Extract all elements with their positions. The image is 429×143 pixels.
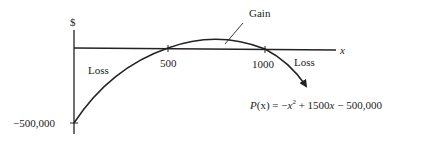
loss-label-left: Loss: [88, 65, 109, 76]
gain-label: Gain: [249, 8, 270, 19]
tick-label-neg-500000: −500,000: [13, 118, 55, 129]
eq-end: − 500,000: [334, 99, 381, 111]
loss-label-right: Loss: [294, 57, 315, 68]
tick-label-500: 500: [160, 58, 177, 69]
y-axis-label: $: [70, 17, 76, 28]
x-axis-label: x: [340, 45, 345, 56]
equation: P(x) = −x2 + 1500x − 500,000: [250, 99, 382, 111]
eq-arg: (x): [257, 99, 270, 111]
x-axis: [74, 48, 336, 50]
chart-canvas: [0, 0, 429, 143]
tick-label-1000: 1000: [252, 59, 274, 70]
eq-eq: = −: [270, 99, 288, 111]
eq-mid: + 1500: [296, 99, 330, 111]
eq-p: P: [250, 99, 257, 111]
